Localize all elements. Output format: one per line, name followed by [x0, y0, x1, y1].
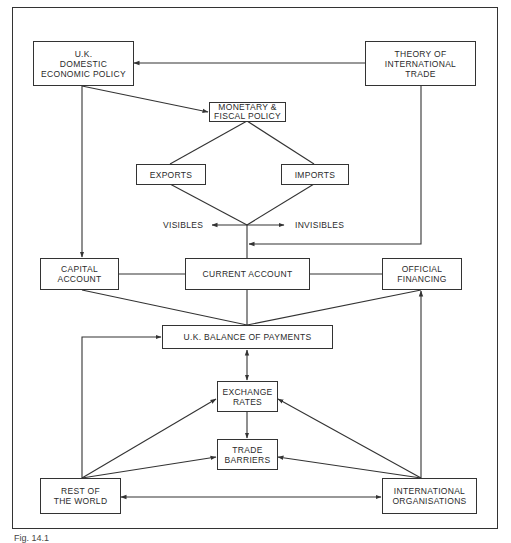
node-uk-balance-of-payments: U.K. BALANCE OF PAYMENTS — [162, 325, 333, 349]
node-current-account: CURRENT ACCOUNT — [185, 258, 310, 290]
node-monetary-fiscal-policy: MONETARY & FISCAL POLICY — [209, 102, 286, 122]
node-capital-account: CAPITAL ACCOUNT — [40, 258, 119, 290]
label-visibles: VISIBLES — [163, 220, 203, 230]
figure-caption: Fig. 14.1 — [14, 533, 49, 543]
label-invisibles: INVISIBLES — [295, 220, 344, 230]
node-rest-of-the-world: REST OF THE WORLD — [40, 478, 121, 514]
node-exchange-rates: EXCHANGE RATES — [217, 381, 278, 412]
node-international-organisations: INTERNATIONAL ORGANISATIONS — [382, 478, 477, 514]
node-trade-barriers: TRADE BARRIERS — [217, 439, 278, 470]
node-theory-of-international-trade: THEORY OF INTERNATIONAL TRADE — [365, 41, 476, 86]
node-exports: EXPORTS — [136, 164, 206, 185]
node-imports: IMPORTS — [281, 164, 349, 185]
node-official-financing: OFFICIAL FINANCING — [382, 258, 462, 290]
node-uk-domestic-economic-policy: U.K. DOMESTIC ECONOMIC POLICY — [33, 41, 134, 86]
